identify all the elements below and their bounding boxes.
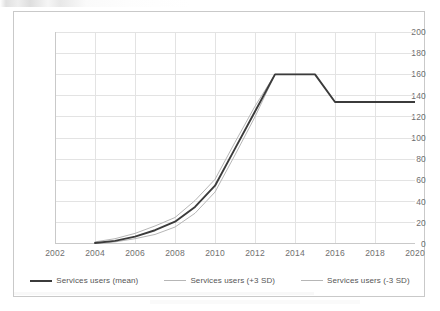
x-tick-2020: 2020 — [405, 248, 425, 258]
x-tick-2010: 2010 — [205, 248, 225, 258]
plot-area — [55, 32, 415, 244]
legend-item-3[interactable]: Services users (-3 SD) — [301, 276, 410, 285]
legend-item-2[interactable]: Services users (+3 SD) — [164, 276, 275, 285]
x-tick-2014: 2014 — [285, 248, 305, 258]
chart-plot-wrapper: 020406080100120140160180200 200220042006… — [14, 12, 426, 298]
scan-artifact-top-edge — [0, 0, 440, 7]
legend-label-2: Services users (+3 SD) — [190, 276, 275, 285]
legend-label-3: Services users (-3 SD) — [327, 276, 410, 285]
x-tick-2008: 2008 — [165, 248, 185, 258]
x-tick-2012: 2012 — [245, 248, 265, 258]
x-tick-2006: 2006 — [125, 248, 145, 258]
x-tick-2002: 2002 — [45, 248, 65, 258]
x-tick-2004: 2004 — [85, 248, 105, 258]
line-chart-svg — [55, 32, 415, 244]
x-tick-2016: 2016 — [325, 248, 345, 258]
x-tick-2018: 2018 — [365, 248, 385, 258]
legend-swatch-icon-3 — [301, 280, 323, 281]
scan-artifact-below-frame — [150, 300, 360, 304]
legend-swatch-icon-1 — [30, 280, 52, 282]
chart-frame: 020406080100120140160180200 200220042006… — [13, 11, 425, 297]
legend-item-1[interactable]: Services users (mean) — [30, 276, 138, 285]
chart-legend: Services users (mean)Services users (+3 … — [14, 276, 426, 285]
legend-label-1: Services users (mean) — [56, 276, 138, 285]
legend-swatch-icon-2 — [164, 280, 186, 281]
